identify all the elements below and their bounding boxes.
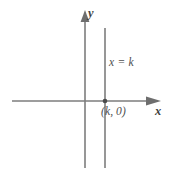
intercept-point-label: (k, 0) [101,106,126,118]
y-axis-label: y [88,7,94,20]
x-axis-label: x [155,105,161,118]
figure-canvas [0,0,173,177]
coordinate-plane-figure: x = k (k, 0) y x [0,0,173,177]
intercept-point-dot [103,99,108,104]
line-equation-label: x = k [109,57,134,69]
